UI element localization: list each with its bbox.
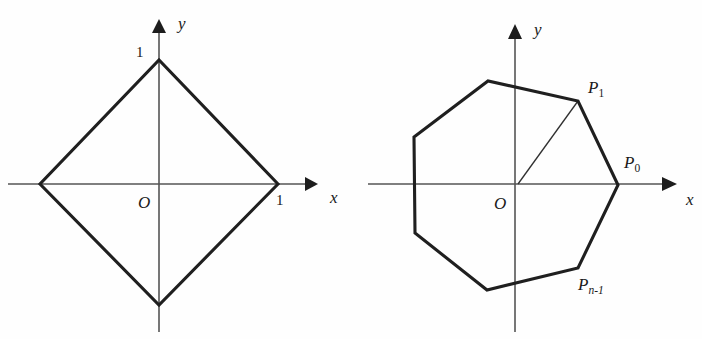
x-axis-label-right: x (685, 190, 694, 209)
diamond-figure-panel: y x 1 1 O (0, 0, 351, 339)
heptagon-outline (414, 81, 618, 290)
vertex-label-p1: P1 (587, 78, 604, 99)
origin-label-left: O (138, 193, 150, 212)
vertex-label-p0-sub: 0 (634, 162, 640, 174)
origin-label-right: O (494, 194, 506, 213)
x-unit-tick-label-left: 1 (276, 192, 284, 208)
vertex-label-p1-base: P (587, 78, 598, 97)
x-axis-arrow-icon (662, 177, 677, 191)
vertex-label-pn-1: Pn-1 (577, 275, 604, 296)
y-axis-arrow-icon (508, 24, 522, 39)
vertex-label-p1-sub: 1 (598, 87, 604, 99)
heptagon-figure-panel: y x O P0 P1 Pn-1 (351, 0, 702, 339)
y-unit-tick-label-left: 1 (136, 44, 144, 60)
y-axis-label-left: y (176, 14, 186, 33)
y-axis-arrow-icon (152, 19, 166, 33)
figure-root: y x 1 1 O y x O P0 P1 Pn-1 (0, 0, 702, 339)
radius-segment-to-p1 (518, 101, 578, 184)
vertex-label-p0-base: P (623, 153, 634, 172)
x-axis-arrow-icon (305, 177, 318, 191)
vertex-label-p0: P0 (623, 153, 640, 174)
y-axis-label-right: y (532, 20, 542, 39)
vertex-label-pn-1-sub: n-1 (588, 284, 603, 296)
x-axis-label-left: x (329, 188, 338, 207)
vertex-label-pn-1-base: P (577, 275, 588, 294)
